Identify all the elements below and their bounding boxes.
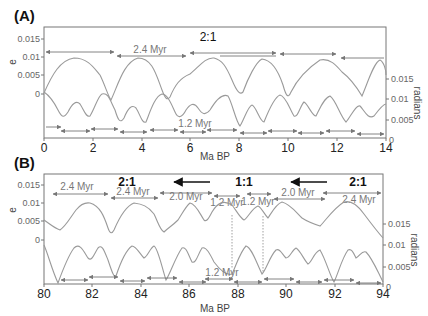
panel-a: (A) 0.015 0.01 0.005 0 e 0.015 0.01 0.00… [7,7,423,162]
b-xtick-6: 92 [328,287,342,301]
b-xtick-0: 80 [37,287,51,301]
a-ltick-1: 0.01 [22,52,40,62]
figure: (A) 0.015 0.01 0.005 0 e 0.015 0.01 0.00… [0,0,428,316]
b-ltick-2: 0.005 [17,216,40,226]
b-ltick-1: 0.01 [22,198,40,208]
a-xtick-1: 2 [90,141,97,155]
b-period-6: 2.0 Myr [281,187,315,198]
panel-a-label: (A) [14,7,35,24]
b-rtick-0: 0.015 [388,219,411,229]
a-rtick-0: 0.015 [391,74,414,84]
a-xtick-4: 8 [236,141,243,155]
a-ltick-2: 0.005 [17,70,40,80]
b-ratio-right: 2:1 [349,175,367,189]
panel-a-x-axis: 0 2 4 6 8 10 12 14 Ma BP [41,138,393,162]
b-xtick-1: 82 [85,287,99,301]
b-xtick-2: 84 [134,287,148,301]
b-xtick-3: 86 [182,287,196,301]
a-xtick-7: 14 [379,141,393,155]
b-ltick-0: 0.015 [17,180,40,190]
a-ratio-label: 2:1 [200,30,217,44]
b-period-5: 1.2 Myr [241,196,275,207]
a-ltick-3: 0 [35,89,40,99]
panel-b-x-axis: 80 82 84 86 88 90 92 94 Ma BP [37,284,390,314]
panel-b-label: (B) [14,154,35,171]
b-period-1: 2.4 Myr [60,181,94,192]
panel-b: (B) 0.015 0.01 0.005 0 e 0.015 0.01 0.00… [7,154,420,314]
a-xtick-6: 12 [330,141,344,155]
panel-a-left-axis: 0.015 0.01 0.005 0 e [7,34,44,99]
b-ratio-mid: 1:1 [235,175,253,189]
panel-a-right-axis: 0.015 0.01 0.005 0 radians [386,74,423,145]
a-long-period-label: 2.4 Myr [133,44,167,55]
a-rtick-1: 0.01 [391,94,409,104]
a-ylabel-left: e [7,59,18,65]
b-period-arrows: 2.4 Myr 2.4 Myr 2.0 Myr 1.2 Myr 1.2 Myr … [53,181,381,208]
b-rtick-1: 0.01 [388,240,406,250]
a-xlabel: Ma BP [200,151,230,162]
panel-b-left-axis: 0.015 0.01 0.005 0 e [7,180,44,245]
a-xtick-2: 4 [139,141,146,155]
b-ylabel-left: e [7,207,18,213]
a-xtick-5: 10 [281,141,295,155]
b-xtick-4: 88 [231,287,245,301]
b-short-period-label: 1.2 Myr [205,267,239,278]
panel-b-right-axis: 0.015 0.01 0.005 0 radians [383,219,420,292]
b-ylabel-right: radians [409,234,420,267]
a-xtick-0: 0 [41,141,48,155]
b-xtick-5: 90 [279,287,293,301]
b-rtick-2: 0.005 [388,262,411,272]
a-eccentricity-curve [44,58,386,100]
a-ylabel-right: radians [412,87,423,120]
a-short-period-label: 1.2 Myr [178,118,212,129]
a-xtick-3: 6 [187,141,194,155]
b-period-2: 2.4 Myr [116,186,150,197]
b-period-7: 2.4 Myr [342,194,376,205]
b-period-3: 2.0 Myr [169,191,203,202]
b-xlabel: Ma BP [200,303,230,314]
b-xtick-7: 94 [376,287,390,301]
a-short-period-arrows: 1.2 Myr [46,118,384,134]
a-rtick-2: 0.005 [391,115,414,125]
b-ltick-3: 0 [35,235,40,245]
a-long-period-arrows: 2.4 Myr [46,44,384,58]
a-ltick-0: 0.015 [17,34,40,44]
a-inclination-curve [44,92,386,126]
